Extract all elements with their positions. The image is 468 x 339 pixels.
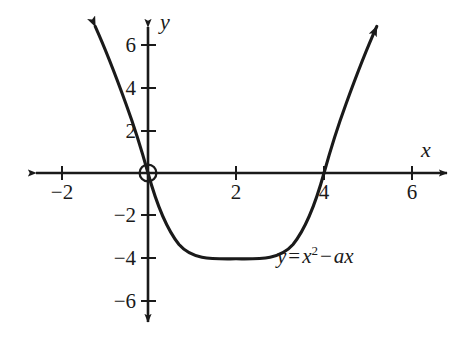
x-tick-label-4: 4: [319, 182, 330, 203]
x-tick-label-6: 6: [407, 182, 418, 203]
equation-equals: =: [286, 244, 302, 268]
equation-x2: x: [344, 244, 353, 268]
y-tick-label-2: 2: [126, 121, 137, 142]
y-axis-label: y: [160, 11, 170, 33]
graph-canvas: [0, 0, 468, 339]
graph-figure: −2 2 4 6 6 4 2 −2 −4 −6 x y y=x2−ax: [0, 0, 468, 339]
y-tick-label-6: 6: [126, 35, 137, 56]
equation-a: a: [334, 244, 345, 268]
equation-x: x: [302, 244, 311, 268]
y-tick-label-4: 4: [126, 78, 137, 99]
x-tick-label-2: 2: [231, 182, 242, 203]
y-tick-label--2: −2: [114, 205, 136, 226]
parabola-curve: [95, 26, 377, 258]
curve-equation-label: y=x2−ax: [277, 246, 354, 267]
y-tick-label--4: −4: [114, 248, 136, 269]
equation-y: y: [277, 244, 286, 268]
x-axis-label: x: [421, 139, 431, 161]
y-tick-label--6: −6: [114, 291, 136, 312]
equation-minus: −: [318, 244, 334, 268]
x-tick-label--2: −2: [51, 182, 73, 203]
